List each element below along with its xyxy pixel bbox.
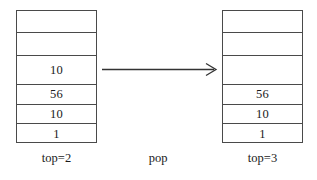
right-stack-after-pop: 56 10 1 [222, 10, 303, 143]
right-stack-cell [223, 33, 302, 56]
left-stack-cell: 10 [17, 56, 96, 85]
left-stack-cell: 1 [17, 124, 96, 144]
pop-arrow [100, 58, 222, 82]
right-stack-cell: 56 [223, 85, 302, 105]
right-stack-cell [223, 56, 302, 85]
right-stack-cell [223, 11, 302, 33]
right-stack-cell: 10 [223, 105, 302, 124]
right-stack-top-label: top=3 [222, 152, 303, 165]
left-stack-before-pop: 10 56 10 1 [16, 10, 97, 143]
arrow-right-icon [100, 58, 222, 82]
operation-label: pop [128, 152, 188, 165]
right-stack-cell: 1 [223, 124, 302, 144]
left-stack-cell: 56 [17, 85, 96, 105]
left-stack-top-label: top=2 [16, 152, 97, 165]
diagram-canvas: 10 56 10 1 top=2 pop 56 10 1 top=3 [0, 0, 317, 180]
left-stack-cell: 10 [17, 105, 96, 124]
left-stack-cell [17, 11, 96, 33]
left-stack-cell [17, 33, 96, 56]
